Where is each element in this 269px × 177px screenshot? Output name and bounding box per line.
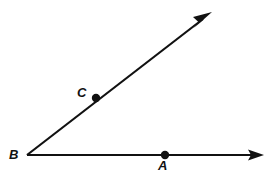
ray-bc-line [27, 19, 203, 155]
point-c-dot [92, 94, 100, 102]
point-b-label: B [9, 148, 18, 161]
point-c-label: C [77, 86, 86, 99]
point-a-label: A [158, 159, 167, 172]
geometry-figure: B A C [0, 0, 269, 177]
angle-diagram-svg [0, 0, 269, 177]
ray-ba-group [27, 150, 264, 161]
ray-bc-group [27, 12, 212, 155]
